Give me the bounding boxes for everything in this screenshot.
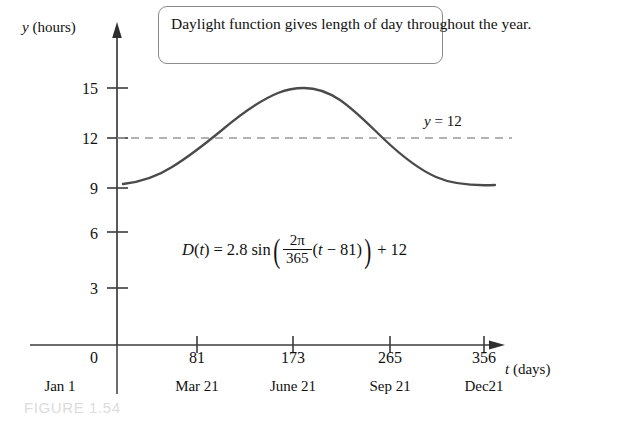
callout-text: Daylight function gives length of day th…	[171, 14, 435, 34]
equation-phase-shift: 81	[340, 242, 357, 259]
equation-trig-function: sin	[251, 242, 270, 259]
x-tick-sublabel-sep21: Sep 21	[350, 379, 430, 394]
equation-inner-variable: t	[318, 242, 323, 259]
reference-line-equals: =	[434, 113, 442, 129]
equation-open-paren: (	[273, 240, 280, 261]
reference-line-value: 12	[447, 113, 462, 129]
equation-numerator: 2π	[287, 233, 308, 249]
figure-container: y (hours) t (days) 15 12 9 6 3 0 81 173 …	[0, 0, 644, 432]
y-axis-title: y (hours)	[22, 20, 76, 35]
y-tick-label-0: 0	[64, 350, 98, 366]
x-tick-sublabel-jan1: Jan 1	[20, 379, 100, 394]
x-tick-label-265: 265	[355, 350, 425, 366]
function-equation: D(t) = 2.8 sin ( 2π 365 (t − 81) ) + 12	[182, 233, 407, 267]
x-tick-label-173: 173	[258, 350, 328, 366]
y-tick-label-6: 6	[64, 226, 98, 242]
y-axis-arrowhead	[112, 22, 122, 38]
equation-vertical-shift: 12	[391, 242, 408, 259]
equation-amplitude: 2.8	[227, 242, 248, 259]
x-tick-label-356: 356	[449, 350, 519, 366]
y-tick-label-15: 15	[64, 81, 98, 97]
equation-plus: +	[377, 242, 386, 259]
equation-close-paren: )	[364, 240, 371, 261]
daylight-curve	[123, 88, 495, 185]
equation-function-name: D	[182, 242, 194, 259]
equation-denominator: 365	[283, 249, 312, 267]
y-tick-label-9: 9	[64, 181, 98, 197]
reference-line-variable: y	[424, 113, 431, 129]
y-axis-variable: y	[22, 19, 29, 35]
y-axis	[112, 22, 122, 345]
x-tick-sublabel-june21: June 21	[253, 379, 333, 394]
y-tick-label-3: 3	[64, 281, 98, 297]
x-tick-label-81: 81	[162, 350, 232, 366]
equation-equals: =	[214, 242, 223, 259]
x-axis	[30, 340, 505, 349]
equation-fraction: 2π 365	[283, 233, 312, 267]
x-tick-sublabel-dec21: Dec21	[444, 379, 524, 394]
y-tick-label-12: 12	[64, 131, 98, 147]
figure-caption: FIGURE 1.54	[24, 400, 121, 415]
reference-line-label: y = 12	[424, 114, 462, 129]
x-tick-sublabel-mar21: Mar 21	[157, 379, 237, 394]
y-axis-unit: (hours)	[32, 19, 75, 35]
equation-minus: −	[327, 242, 336, 259]
callout-box: Daylight function gives length of day th…	[158, 6, 443, 64]
